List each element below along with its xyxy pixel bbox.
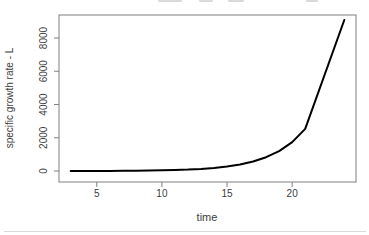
x-axis-label: time: [197, 211, 218, 223]
x-tick-label: 20: [287, 188, 299, 199]
x-tick-label: 15: [221, 188, 233, 199]
y-tick-label: 6000: [38, 60, 49, 83]
x-tick-label: 5: [94, 188, 100, 199]
y-axis-ticks: 02000400060008000: [38, 26, 60, 173]
y-tick-label: 4000: [38, 93, 49, 116]
x-tick-label: 10: [156, 188, 168, 199]
growth-curve-line: [71, 20, 345, 171]
line-chart: 5101520 02000400060008000 time specific …: [0, 0, 369, 235]
y-tick-label: 2000: [38, 126, 49, 149]
plot-box: [59, 15, 356, 182]
cropped-text-artifact: [199, 0, 213, 2]
cropped-text-artifact: [228, 0, 244, 2]
x-axis-ticks: 5101520: [94, 182, 298, 199]
window-edge-line: [4, 231, 366, 232]
cropped-text-artifact: [306, 0, 318, 2]
r-plot-screenshot: 5101520 02000400060008000 time specific …: [0, 0, 369, 235]
y-axis-label: specific growth rate - L: [4, 47, 15, 148]
y-tick-label: 8000: [38, 26, 49, 49]
cropped-text-artifact: [158, 0, 182, 2]
y-tick-label: 0: [38, 168, 49, 174]
